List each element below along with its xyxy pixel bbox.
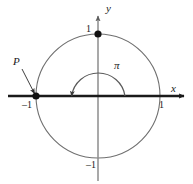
y-axis-label: y	[106, 3, 111, 14]
point-p-dot	[32, 92, 39, 99]
x-tick-label-negative-one: –1	[22, 100, 32, 110]
unit-circle-figure: y x P π 1 1 –1 –1	[0, 0, 193, 184]
point-top	[94, 30, 101, 37]
x-axis-label: x	[171, 83, 176, 94]
p-leader-line	[22, 69, 35, 94]
point-p-label: P	[13, 56, 20, 67]
x-tick-label-one: 1	[159, 100, 164, 110]
y-tick-label-one: 1	[86, 24, 91, 34]
unit-circle-svg	[0, 0, 193, 184]
angle-pi-label: π	[114, 60, 120, 71]
y-tick-label-negative-one: –1	[86, 160, 96, 170]
